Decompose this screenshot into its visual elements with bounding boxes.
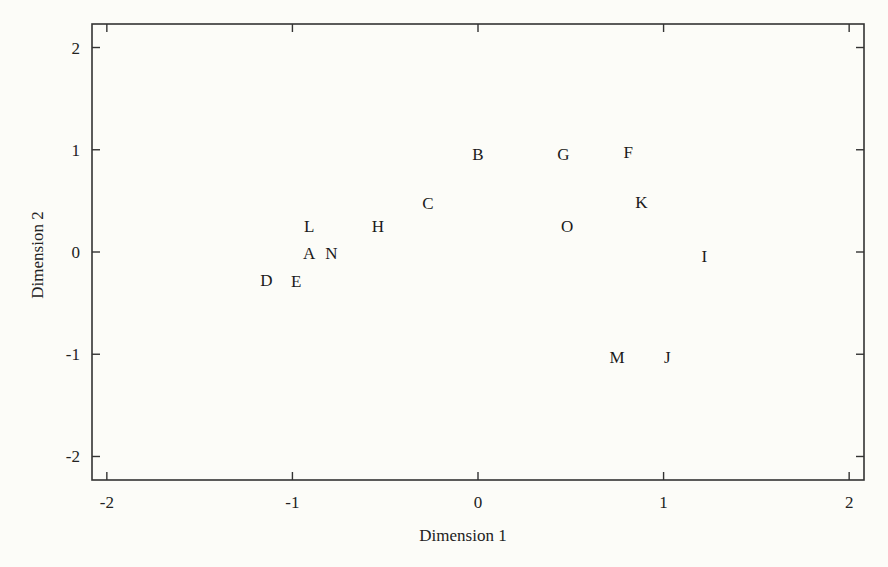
point-label-b: B xyxy=(472,145,483,164)
point-label-j: J xyxy=(664,348,671,367)
x-tick-label: 0 xyxy=(474,493,483,512)
point-label-i: I xyxy=(702,247,708,266)
point-label-e: E xyxy=(291,272,301,291)
plot-frame xyxy=(92,24,864,480)
point-label-h: H xyxy=(372,217,384,236)
x-axis-title: Dimension 1 xyxy=(419,526,506,545)
x-axis-ticks: -2-1012 xyxy=(100,24,854,512)
y-axis-ticks: -2-1012 xyxy=(66,39,864,467)
data-points: ABCDEFGHIJKLMNO xyxy=(260,143,707,368)
x-tick-label: -2 xyxy=(100,493,114,512)
point-label-k: K xyxy=(635,193,648,212)
x-tick-label: 2 xyxy=(845,493,854,512)
point-label-n: N xyxy=(325,244,337,263)
point-label-a: A xyxy=(303,244,316,263)
x-tick-label: -1 xyxy=(285,493,299,512)
point-label-c: C xyxy=(422,194,433,213)
x-tick-label: 1 xyxy=(659,493,668,512)
point-label-d: D xyxy=(260,271,272,290)
point-label-o: O xyxy=(561,217,573,236)
point-label-l: L xyxy=(304,217,314,236)
y-axis-title: Dimension 2 xyxy=(28,211,47,298)
y-tick-label: 2 xyxy=(72,39,81,58)
point-label-f: F xyxy=(624,143,633,162)
y-tick-label: 0 xyxy=(72,243,81,262)
point-label-g: G xyxy=(557,145,569,164)
y-tick-label: -2 xyxy=(66,447,80,466)
scatter-plot: -2-1012 -2-1012 ABCDEFGHIJKLMNO Dimensio… xyxy=(0,0,888,567)
y-tick-label: 1 xyxy=(72,141,81,160)
point-label-m: M xyxy=(610,348,625,367)
y-tick-label: -1 xyxy=(66,345,80,364)
